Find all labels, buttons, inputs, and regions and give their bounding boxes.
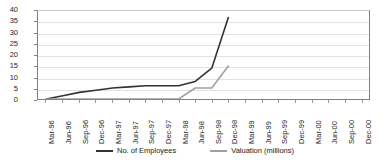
x-axis-tick-label: Sep-97 [148, 120, 156, 144]
x-axis-tick-label: Dec-99 [298, 120, 306, 144]
legend-line-icon [210, 150, 227, 152]
x-axis-tick-mark [95, 100, 96, 103]
y-axis-tick-label: 20 [0, 51, 18, 59]
x-axis-tick-mark [312, 100, 313, 103]
x-axis-tick-label: Mar-97 [115, 120, 123, 144]
x-axis-tick-mark [179, 100, 180, 103]
x-axis-tick-mark [228, 100, 229, 103]
y-axis-tick-label: 5 [0, 85, 18, 93]
y-axis-tick-mark [34, 44, 37, 45]
x-axis-tick-label: Dec-97 [165, 120, 173, 144]
y-axis-tick-mark [34, 33, 37, 34]
x-axis-tick-label: Dec-96 [98, 120, 106, 144]
legend: No. of EmployeesValuation (millions) [0, 146, 390, 155]
y-axis-tick-label: 0 [0, 96, 18, 104]
plot-area [37, 10, 370, 100]
x-axis-tick-label: Sep-99 [281, 120, 289, 144]
legend-label: Valuation (millions) [231, 146, 294, 155]
x-axis-tick-mark [112, 100, 113, 103]
x-axis-tick-mark [245, 100, 246, 103]
x-axis-tick-mark [295, 100, 296, 103]
legend-line-icon [96, 150, 113, 152]
x-axis-tick-mark [278, 100, 279, 103]
x-axis-tick-mark [195, 100, 196, 103]
x-axis-tick-label: Mar-00 [315, 120, 323, 144]
x-axis-tick-mark [262, 100, 263, 103]
x-axis-tick-mark [45, 100, 46, 103]
x-axis-tick-label: Mar-98 [182, 120, 190, 144]
x-axis-tick-mark [328, 100, 329, 103]
x-axis-tick-mark [162, 100, 163, 103]
x-axis-tick-mark [345, 100, 346, 103]
x-axis-tick-mark [79, 100, 80, 103]
y-axis-tick-mark [34, 89, 37, 90]
y-axis-tick-label: 35 [0, 17, 18, 25]
y-axis-tick-mark [34, 100, 37, 101]
y-axis-tick-label: 15 [0, 62, 18, 70]
x-axis-tick-label: Mar-96 [48, 120, 56, 144]
y-axis-tick-mark [34, 55, 37, 56]
x-axis-tick-label: Jun-96 [65, 121, 73, 144]
legend-label: No. of Employees [117, 146, 176, 155]
x-axis-tick-label: Sep-98 [215, 120, 223, 144]
x-axis-tick-label: Mar-99 [248, 120, 256, 144]
x-axis-labels: Mar-96Jun-96Sep-96Dec-96Mar-97Jun-97Sep-… [37, 104, 370, 146]
y-axis-tick-label: 40 [0, 6, 18, 14]
x-axis-tick-mark [212, 100, 213, 103]
y-axis-tick-label: 30 [0, 29, 18, 37]
x-axis-tick-label: Jun-99 [265, 121, 273, 144]
y-axis-tick-mark [34, 66, 37, 67]
series-line [46, 18, 228, 99]
y-axis-tick-label: 10 [0, 74, 18, 82]
x-axis-tick-label: Jun-00 [331, 121, 339, 144]
x-axis-tick-label: Dec-98 [231, 120, 239, 144]
x-axis-tick-label: Dec-00 [365, 120, 373, 144]
x-axis-tick-label: Jun-97 [132, 121, 140, 144]
legend-item: No. of Employees [96, 146, 176, 155]
x-axis-tick-mark [129, 100, 130, 103]
x-axis-tick-label: Sep-00 [348, 120, 356, 144]
x-axis-tick-mark [62, 100, 63, 103]
y-axis-tick-mark [34, 10, 37, 11]
x-axis-tick-mark [362, 100, 363, 103]
legend-item: Valuation (millions) [210, 146, 294, 155]
x-axis-tick-mark [145, 100, 146, 103]
y-axis-tick-mark [34, 78, 37, 79]
x-axis-tick-label: Jun-98 [198, 121, 206, 144]
x-axis-tick-label: Sep-96 [82, 120, 90, 144]
line-chart: 0510152025303540 Mar-96Jun-96Sep-96Dec-9… [0, 0, 390, 165]
y-axis-tick-mark [34, 21, 37, 22]
y-axis-tick-label: 25 [0, 40, 18, 48]
series-lines [38, 11, 369, 99]
